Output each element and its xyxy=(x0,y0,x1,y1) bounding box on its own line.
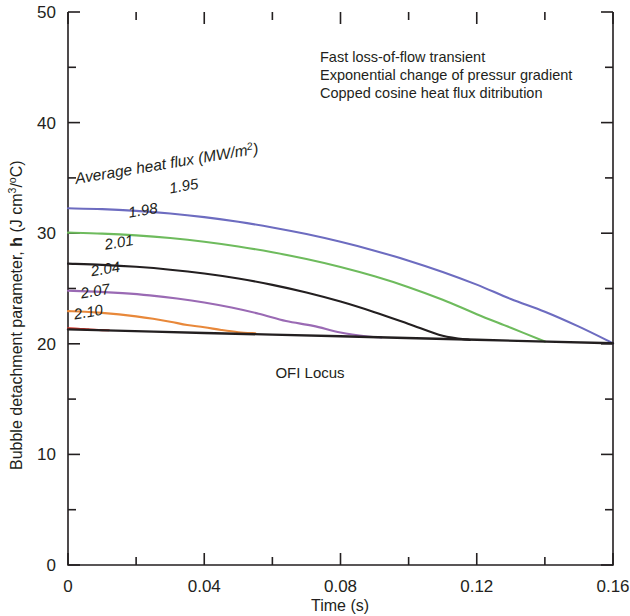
x-tick-label: 0.16 xyxy=(596,577,629,596)
y-axis-title: Bubble detachment parameter, h (J cm3/oC… xyxy=(6,160,25,470)
chart-svg: 01020304050 00.040.080.120.16 1.951.982.… xyxy=(0,0,630,616)
annotation-note-0: Fast loss-of-flow transient xyxy=(320,49,485,65)
x-axis-title: Time (s) xyxy=(311,597,369,614)
y-tick-label: 40 xyxy=(37,114,56,133)
x-tick-label: 0.12 xyxy=(460,577,493,596)
y-axis-title-units-post: C) xyxy=(8,160,25,177)
y-tick-label: 30 xyxy=(37,224,56,243)
x-tick-label: 0.08 xyxy=(324,577,357,596)
chart-figure: 01020304050 00.040.080.120.16 1.951.982.… xyxy=(0,0,630,616)
x-tick-label: 0 xyxy=(63,577,72,596)
y-tick-label: 50 xyxy=(37,3,56,22)
y-axis-title-text: Bubble detachment parameter, xyxy=(8,247,25,470)
y-axis-title-symbol: h xyxy=(8,237,25,247)
svg-text:Bubble detachment parameter, h: Bubble detachment parameter, h (J cm3/oC… xyxy=(6,160,25,470)
x-tick-label: 0.04 xyxy=(188,577,221,596)
y-tick-label: 0 xyxy=(47,556,56,575)
y-tick-label: 20 xyxy=(37,335,56,354)
annotation-note-1: Exponential change of pressur gradient xyxy=(320,67,572,83)
ofi-locus-label: OFI Locus xyxy=(275,364,344,381)
y-axis-title-units-pre: (J cm xyxy=(8,193,25,237)
y-tick-label: 10 xyxy=(37,445,56,464)
annotation-note-2: Copped cosine heat flux ditribution xyxy=(320,85,542,101)
